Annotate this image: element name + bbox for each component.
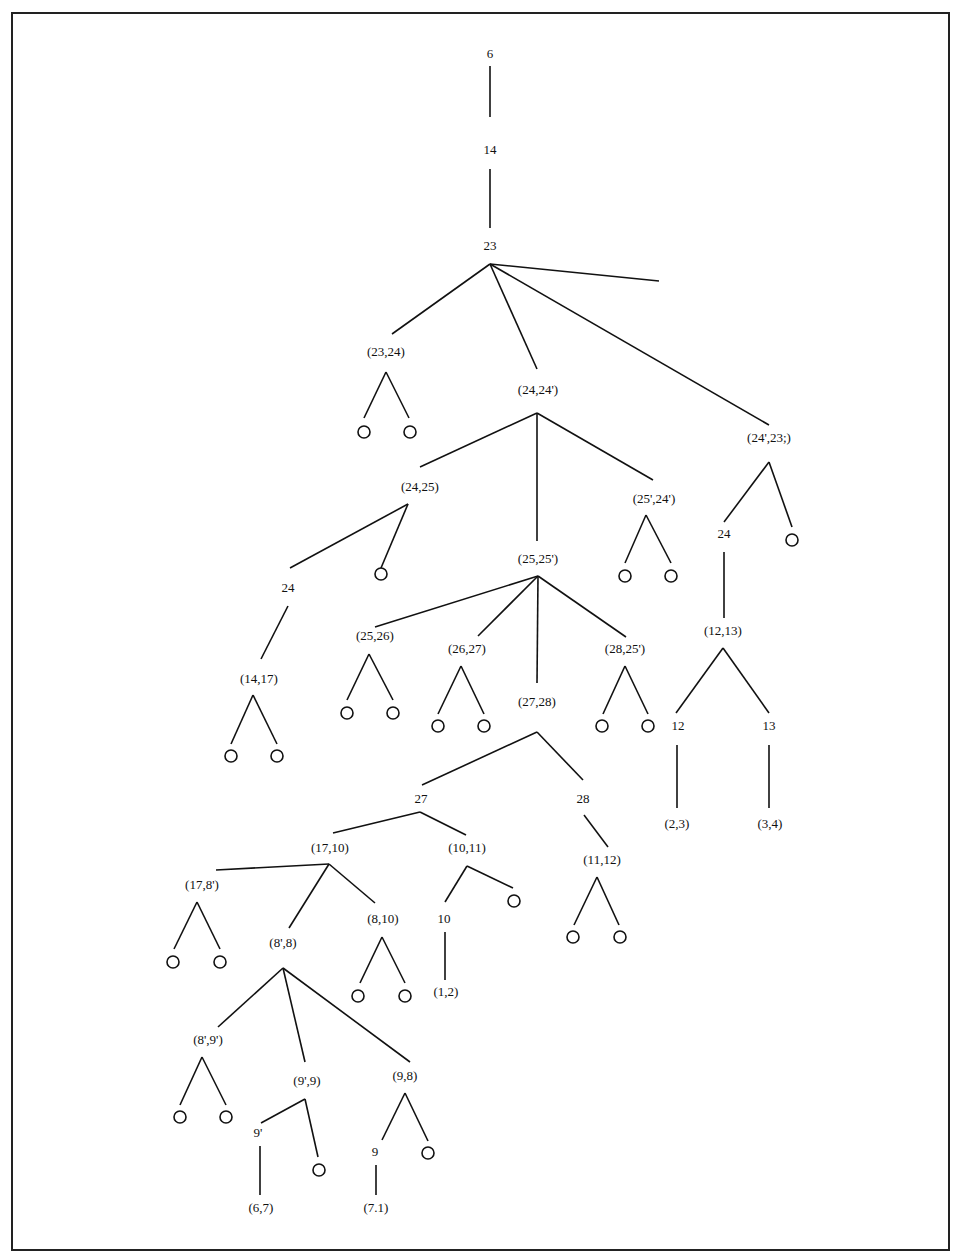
tree-edge xyxy=(290,504,408,568)
tree-edge xyxy=(420,812,466,835)
empty-leaf-circle-icon xyxy=(313,1164,325,1176)
tree-edge xyxy=(490,264,537,369)
tree-edge xyxy=(584,815,608,847)
empty-leaf-circle-icon xyxy=(478,720,490,732)
tree-node-label: (10,11) xyxy=(448,840,485,855)
tree-node-label: (24',23;) xyxy=(747,430,791,445)
empty-leaf-circle-icon xyxy=(642,720,654,732)
tree-node-label: 24 xyxy=(282,580,296,595)
tree-node-label: (17,10) xyxy=(311,840,349,855)
tree-node-label: (24,24') xyxy=(518,382,558,397)
tree-edge xyxy=(422,732,537,785)
tree-node-label: 9 xyxy=(372,1144,379,1159)
tree-edge xyxy=(261,1099,305,1123)
tree-node-label: (25,25') xyxy=(518,551,558,566)
tree-edge xyxy=(537,576,538,683)
tree-edge xyxy=(253,695,277,744)
tree-edge xyxy=(490,264,769,425)
tree-edge xyxy=(381,504,408,568)
tree-edge xyxy=(231,695,253,744)
empty-leaf-circle-icon xyxy=(404,426,416,438)
tree-edge xyxy=(382,937,405,983)
tree-edge xyxy=(386,372,409,418)
empty-leaf-circle-icon xyxy=(387,707,399,719)
tree-node-label: (3,4) xyxy=(758,816,783,831)
tree-node-label: (25,26) xyxy=(356,628,394,643)
empty-leaf-circle-icon xyxy=(665,570,677,582)
empty-leaf-circle-icon xyxy=(786,534,798,546)
tree-edge xyxy=(537,413,653,480)
empty-leaf-circle-icon xyxy=(358,426,370,438)
tree-node-label: 13 xyxy=(763,718,776,733)
tree-node-label: (2,3) xyxy=(665,816,690,831)
tree-node-label: 24 xyxy=(718,526,732,541)
tree-edge xyxy=(438,666,461,714)
empty-leaf-circle-icon xyxy=(220,1111,232,1123)
empty-leaf-circle-icon xyxy=(596,720,608,732)
tree-edge xyxy=(329,864,375,903)
empty-leaf-circle-icon xyxy=(567,931,579,943)
tree-node-label: (11,12) xyxy=(583,852,620,867)
tree-edge xyxy=(538,576,626,637)
tree-node-label: 10 xyxy=(438,911,451,926)
tree-node-label: (28,25') xyxy=(605,641,645,656)
tree-edge xyxy=(445,866,467,902)
empty-leaf-circle-icon xyxy=(432,720,444,732)
tree-edge xyxy=(261,606,288,659)
tree-node-label: 9' xyxy=(254,1125,263,1140)
tree-edge xyxy=(347,654,369,700)
empty-leaf-circle-icon xyxy=(352,990,364,1002)
tree-node-label: (6,7) xyxy=(249,1200,274,1215)
empty-leaf-circle-icon xyxy=(225,750,237,762)
tree-node-label: (24,25) xyxy=(401,479,439,494)
empty-leaf-circle-icon xyxy=(614,931,626,943)
tree-node-label: 6 xyxy=(487,46,494,61)
tree-edge xyxy=(216,864,329,870)
tree-edge xyxy=(405,1093,428,1141)
tree-edge xyxy=(676,648,723,713)
tree-node-label: (8',8) xyxy=(269,935,296,950)
tree-edge xyxy=(392,264,490,334)
tree-node-label: (27,28) xyxy=(518,694,556,709)
empty-leaf-circle-icon xyxy=(214,956,226,968)
tree-edge xyxy=(289,864,329,928)
tree-edge xyxy=(202,1057,226,1105)
tree-edge xyxy=(382,1093,405,1140)
tree-edge xyxy=(625,666,648,714)
tree-node-label: 14 xyxy=(484,142,498,157)
tree-edge xyxy=(197,902,220,949)
tree-edge xyxy=(174,902,197,949)
tree-node-label: 28 xyxy=(577,791,590,806)
tree-edges xyxy=(174,66,792,1195)
tree-node-label: (7.1) xyxy=(364,1200,389,1215)
tree-edge xyxy=(603,666,625,714)
tree-node-label: 12 xyxy=(672,718,685,733)
tree-leaves xyxy=(167,426,798,1176)
tree-node-label: (9,8) xyxy=(393,1068,418,1083)
tree-node-label: (14,17) xyxy=(240,671,278,686)
empty-leaf-circle-icon xyxy=(174,1111,186,1123)
tree-edge xyxy=(625,515,646,563)
tree-edge xyxy=(597,877,619,925)
tree-node-label: (1,2) xyxy=(434,984,459,999)
search-tree-diagram: 61423(23,24)(24,24')(24',23;)(24,25)(25'… xyxy=(0,0,957,1260)
tree-node-label: (26,27) xyxy=(448,641,486,656)
tree-edge xyxy=(420,413,537,467)
empty-leaf-circle-icon xyxy=(167,956,179,968)
tree-edge xyxy=(360,937,382,983)
tree-node-label: (25',24') xyxy=(633,491,676,506)
tree-edge xyxy=(467,866,513,888)
empty-leaf-circle-icon xyxy=(422,1147,434,1159)
empty-leaf-circle-icon xyxy=(375,568,387,580)
tree-edge xyxy=(333,812,420,833)
tree-edge xyxy=(364,372,386,418)
empty-leaf-circle-icon xyxy=(619,570,631,582)
tree-edge xyxy=(574,877,597,925)
tree-node-label: 23 xyxy=(484,238,497,253)
empty-leaf-circle-icon xyxy=(508,895,520,907)
tree-node-label: 27 xyxy=(415,791,429,806)
tree-node-label: (23,24) xyxy=(367,344,405,359)
tree-node-label: (9',9) xyxy=(293,1073,320,1088)
tree-edge xyxy=(723,648,769,713)
tree-edge xyxy=(180,1057,202,1105)
